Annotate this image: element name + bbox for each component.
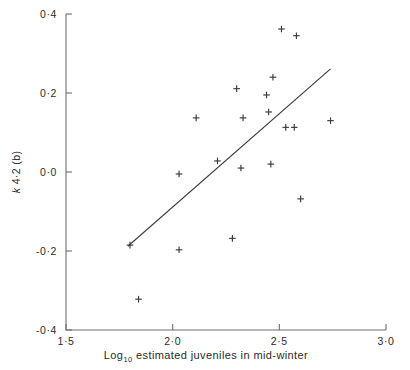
data-point-marker	[297, 196, 304, 203]
data-point-marker	[233, 85, 240, 92]
tick-labels: 0·40·20·0-0·2-0·41·52·02·53·0	[36, 8, 395, 347]
x-tick-label: 1·5	[58, 335, 75, 347]
scatter-plot-figure: 0·40·20·0-0·2-0·41·52·02·53·0 Log10 esti…	[0, 0, 410, 370]
y-axis-label-group: k 4·2 (b)	[10, 151, 22, 194]
y-tick-label: 0·4	[40, 8, 57, 20]
data-point-marker	[214, 158, 221, 165]
data-point-marker	[240, 115, 247, 122]
x-axis-label: Log10 estimated juveniles in mid-winter	[104, 349, 308, 364]
data-point-marker	[229, 235, 236, 242]
y-tick-label: 0·0	[40, 166, 57, 178]
y-axis-label: k 4·2 (b)	[10, 151, 22, 194]
data-point-marker	[282, 124, 289, 131]
data-point-marker	[270, 74, 277, 81]
axes	[66, 14, 386, 330]
y-tick-label: 0·2	[40, 87, 57, 99]
data-point-marker	[238, 165, 245, 172]
data-point-marker	[268, 161, 275, 168]
regression-line-segment	[128, 69, 331, 246]
y-tick-label: -0·4	[36, 324, 57, 336]
axis-lines	[66, 14, 386, 330]
data-point-marker	[193, 115, 200, 122]
data-point-marker	[176, 247, 183, 254]
data-point-marker	[293, 32, 300, 39]
x-tick-label: 2·0	[164, 335, 181, 347]
x-tick-label: 3·0	[378, 335, 395, 347]
data-point-marker	[291, 124, 298, 131]
data-point-marker	[278, 26, 285, 33]
x-tick-label: 2·5	[271, 335, 288, 347]
plot-canvas: 0·40·20·0-0·2-0·41·52·02·53·0 Log10 esti…	[0, 0, 410, 370]
data-point-marker	[265, 109, 272, 116]
y-tick-label: -0·2	[36, 245, 57, 257]
data-point-marker	[135, 296, 142, 303]
tick-marks	[66, 14, 386, 330]
data-point-marker	[327, 117, 334, 124]
data-point-marker	[263, 92, 270, 99]
regression-line	[128, 69, 331, 246]
data-point-marker	[176, 171, 183, 178]
data-points	[127, 26, 334, 303]
